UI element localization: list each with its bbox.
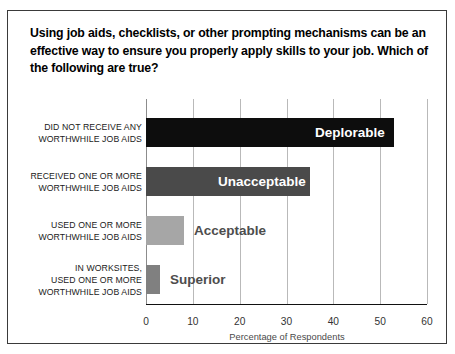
bar-label-deplorable: Deplorable <box>315 118 385 147</box>
plot-inner: Deplorable Unacceptable Acceptable Super… <box>146 108 427 305</box>
bar-acceptable <box>146 216 184 245</box>
bar-row: Superior <box>146 255 427 304</box>
xtick-60: 60 <box>412 316 442 327</box>
bar-label-superior: Superior <box>170 265 226 294</box>
xtick-40: 40 <box>318 316 348 327</box>
category-label: RECEIVED ONE OR MORE WORTHWHILE JOB AIDS <box>30 170 142 194</box>
xtick-10: 10 <box>178 316 208 327</box>
plot-area: Deplorable Unacceptable Acceptable Super… <box>146 99 428 310</box>
xtick-30: 30 <box>272 316 302 327</box>
bar-label-acceptable: Acceptable <box>194 216 266 245</box>
chart-title: Using job aids, checklists, or other pro… <box>30 25 430 78</box>
xtick-50: 50 <box>365 316 395 327</box>
bar-label-unacceptable: Unacceptable <box>218 167 306 196</box>
category-axis-labels: DID NOT RECEIVE ANY WORTHWHILE JOB AIDS … <box>18 99 142 310</box>
bar-row: Unacceptable <box>146 157 427 206</box>
chart-figure: Using job aids, checklists, or other pro… <box>7 10 447 344</box>
category-label: DID NOT RECEIVE ANY WORTHWHILE JOB AIDS <box>38 121 142 145</box>
bar-row: Deplorable <box>146 108 427 157</box>
xtick-0: 0 <box>131 316 161 327</box>
xtick-20: 20 <box>225 316 255 327</box>
gridline-60 <box>427 99 428 304</box>
category-label: IN WORKSITES, USED ONE OR MORE WORTHWHIL… <box>38 262 142 299</box>
bar-superior <box>146 265 160 294</box>
bar-row: Acceptable <box>146 206 427 255</box>
category-label: USED ONE OR MORE WORTHWHILE JOB AIDS <box>38 219 142 243</box>
x-axis-title: Percentage of Respondents <box>146 332 428 342</box>
